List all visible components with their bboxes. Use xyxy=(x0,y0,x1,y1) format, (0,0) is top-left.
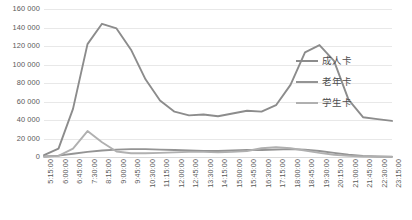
x-axis-tick-text: 16:30:00 xyxy=(264,159,271,188)
x-axis-tick-label: 9:45:00 xyxy=(131,159,138,184)
x-axis-tick-text: 18:45:00 xyxy=(308,159,315,188)
x-axis-tick-label: 7:30:00 xyxy=(88,159,95,184)
x-axis-tick-label: 12:00:00 xyxy=(175,159,182,188)
x-axis-tick-text: 11:15:00 xyxy=(163,159,170,187)
x-axis-tick-label: 5:15:00 xyxy=(44,159,51,184)
y-axis-tick-label: 60 000 xyxy=(17,98,40,105)
x-axis-tick-label: 20:15:00 xyxy=(334,159,341,188)
x-axis-tick-label: 18:00:00 xyxy=(291,159,298,188)
y-axis-tick-label: 0 xyxy=(36,153,40,160)
x-axis-tick-text: 8:15:00 xyxy=(105,159,112,184)
legend-item-label: 成人卡 xyxy=(322,56,352,66)
x-axis-tick-label: 21:00:00 xyxy=(349,159,356,188)
x-axis-tick-text: 13:30:00 xyxy=(206,159,213,188)
x-axis-tick-text: 6:00:00 xyxy=(61,159,68,184)
x-axis-tick-text: 21:00:00 xyxy=(351,159,358,188)
x-axis-tick-text: 12:00:00 xyxy=(177,159,184,188)
x-axis-tick-text: 15:45:00 xyxy=(250,159,257,188)
x-axis-tick-label: 11:15:00 xyxy=(160,159,167,187)
x-axis-tick-label: 12:45:00 xyxy=(189,159,196,188)
gridline xyxy=(44,157,392,158)
y-axis-tick-label: 120 000 xyxy=(13,42,40,49)
y-axis-tick-label: 140 000 xyxy=(13,24,40,31)
y-axis-tick-label: 100 000 xyxy=(13,61,40,68)
x-axis-tick-text: 9:00:00 xyxy=(119,159,126,184)
x-axis-tick-text: 18:00:00 xyxy=(293,159,300,188)
x-axis-tick-label: 6:00:00 xyxy=(59,159,66,184)
x-axis-tick-text: 5:15:00 xyxy=(47,159,54,184)
legend-swatch-icon xyxy=(296,81,318,83)
x-axis-tick-text: 17:15:00 xyxy=(279,159,286,188)
legend-swatch-icon xyxy=(296,102,318,104)
line-chart: 020 00040 00060 00080 000100 000120 0001… xyxy=(0,0,412,220)
legend-item[interactable]: 老年卡 xyxy=(296,71,400,92)
x-axis-tick-label: 18:45:00 xyxy=(305,159,312,188)
x-axis-tick-text: 14:15:00 xyxy=(221,159,228,188)
legend-item[interactable]: 学生卡 xyxy=(296,92,400,113)
x-axis-tick-text: 12:45:00 xyxy=(192,159,199,188)
x-axis-tick-label: 6:45:00 xyxy=(73,159,80,184)
x-axis-tick-text: 20:15:00 xyxy=(337,159,344,188)
x-axis-tick-label: 14:15:00 xyxy=(218,159,225,188)
x-axis-tick-label: 16:30:00 xyxy=(262,159,269,188)
x-axis-tick-text: 23:15:00 xyxy=(395,159,402,188)
y-axis-tick-label: 40 000 xyxy=(17,116,40,123)
x-axis-tick-text: 6:45:00 xyxy=(76,159,83,184)
x-axis-tick-label: 10:30:00 xyxy=(146,159,153,188)
x-axis-tick-text: 10:30:00 xyxy=(148,159,155,188)
x-axis-tick-label: 15:00:00 xyxy=(233,159,240,188)
y-axis-tick-label: 20 000 xyxy=(17,135,40,142)
legend-item-label: 学生卡 xyxy=(322,98,352,108)
x-axis-tick-text: 7:30:00 xyxy=(90,159,97,184)
legend-item[interactable]: 成人卡 xyxy=(296,50,400,71)
x-axis-tick-text: 19:30:00 xyxy=(322,159,329,188)
y-axis: 020 00040 00060 00080 000100 000120 0001… xyxy=(0,9,40,157)
x-axis-tick-label: 17:15:00 xyxy=(276,159,283,188)
x-axis-tick-label: 22:30:00 xyxy=(378,159,385,188)
x-axis-tick-label: 8:15:00 xyxy=(102,159,109,184)
x-axis-tick-label: 15:45:00 xyxy=(247,159,254,188)
x-axis: 5:15:006:00:006:45:007:30:008:15:009:00:… xyxy=(44,159,392,217)
x-axis-tick-text: 22:30:00 xyxy=(380,159,387,188)
x-axis-tick-label: 21:45:00 xyxy=(363,159,370,188)
legend-item-label: 老年卡 xyxy=(322,77,352,87)
x-axis-tick-label: 19:30:00 xyxy=(320,159,327,188)
x-axis-tick-label: 9:00:00 xyxy=(117,159,124,184)
y-axis-tick-label: 80 000 xyxy=(17,79,40,86)
x-axis-tick-label: 13:30:00 xyxy=(204,159,211,188)
x-axis-tick-label: 23:15:00 xyxy=(392,159,399,188)
x-axis-tick-text: 9:45:00 xyxy=(134,159,141,184)
y-axis-tick-label: 160 000 xyxy=(13,5,40,12)
legend: 成人卡老年卡学生卡 xyxy=(296,50,400,113)
x-axis-tick-text: 21:45:00 xyxy=(366,159,373,188)
x-axis-tick-text: 15:00:00 xyxy=(235,159,242,188)
legend-swatch-icon xyxy=(296,60,318,62)
